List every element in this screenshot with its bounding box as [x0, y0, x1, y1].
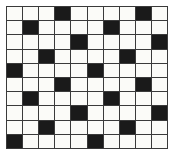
grid-cell-filled [104, 92, 119, 105]
grid-cell-empty [7, 106, 22, 119]
grid-cell-empty [152, 64, 167, 77]
grid-cell-empty [39, 64, 54, 77]
grid-cell-empty [23, 64, 38, 77]
grid-cell-filled [71, 35, 86, 48]
grid-cell-empty [71, 121, 86, 134]
grid-cell-empty [152, 78, 167, 91]
grid-cell-empty [23, 78, 38, 91]
grid-cell-empty [39, 135, 54, 148]
grid-cell-empty [152, 50, 167, 63]
grid-cell-empty [71, 78, 86, 91]
grid-cell-empty [136, 121, 151, 134]
grid-cell-empty [39, 78, 54, 91]
grid-cell-empty [23, 7, 38, 20]
grid-cell-filled [104, 21, 119, 34]
grid-cell-empty [7, 21, 22, 34]
grid-cell-filled [55, 78, 70, 91]
screenshot-canvas [0, 0, 177, 156]
grid-cell-empty [71, 7, 86, 20]
grid-cell-empty [104, 64, 119, 77]
grid-cell-empty [39, 7, 54, 20]
grid-cell-empty [120, 21, 135, 34]
grid-cell-filled [7, 135, 22, 148]
grid-cell-empty [104, 135, 119, 148]
grid-cell-empty [136, 64, 151, 77]
grid-cell-empty [136, 92, 151, 105]
grid-cell-empty [152, 135, 167, 148]
grid-cell-empty [39, 21, 54, 34]
grid-cell-empty [7, 7, 22, 20]
grid-cell-filled [120, 121, 135, 134]
grid-cell-empty [55, 92, 70, 105]
grid-cell-empty [88, 50, 103, 63]
grid-cell-empty [120, 78, 135, 91]
grid-cell-empty [39, 106, 54, 119]
grid-cell-empty [88, 21, 103, 34]
grid-cell-empty [104, 106, 119, 119]
grid-cell-empty [55, 135, 70, 148]
grid-cell-filled [136, 78, 151, 91]
grid-cell-empty [88, 7, 103, 20]
grid-cell-empty [104, 7, 119, 20]
grid-cell-empty [7, 121, 22, 134]
grid-cell-filled [39, 50, 54, 63]
grid-cell-filled [7, 64, 22, 77]
grid-cell-empty [39, 92, 54, 105]
grid-cell-empty [7, 35, 22, 48]
grid-cell-empty [88, 78, 103, 91]
grid-cell-empty [71, 21, 86, 34]
grid-cell-empty [71, 64, 86, 77]
grid-cell-empty [152, 21, 167, 34]
grid-cell-empty [88, 92, 103, 105]
grid-cell-empty [104, 50, 119, 63]
grid-cell-empty [7, 92, 22, 105]
grid-cell-empty [23, 121, 38, 134]
grid-cell-empty [104, 78, 119, 91]
grid-cell-filled [152, 106, 167, 119]
grid-cell-empty [120, 64, 135, 77]
grid-cell-empty [39, 35, 54, 48]
grid-cell-empty [120, 7, 135, 20]
grid-cell-filled [136, 7, 151, 20]
grid-cell-empty [7, 78, 22, 91]
grid-cell-empty [71, 50, 86, 63]
grid-cell-empty [152, 92, 167, 105]
grid-cell-filled [71, 106, 86, 119]
grid-cell-empty [120, 92, 135, 105]
grid-cell-empty [88, 35, 103, 48]
grid-cell-filled [23, 92, 38, 105]
grid-cell-empty [88, 106, 103, 119]
grid-cell-filled [152, 35, 167, 48]
grid-cell-empty [104, 121, 119, 134]
grid-cell-empty [23, 135, 38, 148]
grid-cell-empty [55, 121, 70, 134]
grid-cell-empty [55, 35, 70, 48]
grid-cell-empty [71, 135, 86, 148]
grid-cell-empty [7, 50, 22, 63]
grid-cell-empty [71, 92, 86, 105]
grid-cell-filled [23, 21, 38, 34]
grid-cell-filled [88, 64, 103, 77]
grid-figure [6, 6, 168, 149]
grid-cell-empty [55, 21, 70, 34]
grid-cell-empty [152, 121, 167, 134]
grid-cell-empty [136, 106, 151, 119]
grid-cell-empty [23, 50, 38, 63]
grid-cell-empty [136, 135, 151, 148]
grid-cell-empty [120, 135, 135, 148]
grid-cell-filled [39, 121, 54, 134]
grid-cell-empty [23, 106, 38, 119]
grid-cell-empty [136, 35, 151, 48]
grid-cell-filled [88, 135, 103, 148]
grid-cell-empty [55, 106, 70, 119]
grid-cell-empty [136, 21, 151, 34]
grid-cell-filled [55, 7, 70, 20]
grid-cell-empty [88, 121, 103, 134]
grid-cell-empty [23, 35, 38, 48]
grid-cell-empty [55, 64, 70, 77]
grid-cell-empty [120, 106, 135, 119]
grid-cell-empty [55, 50, 70, 63]
grid-cell-empty [152, 7, 167, 20]
grid-cell-empty [104, 35, 119, 48]
grid-cell-empty [120, 35, 135, 48]
